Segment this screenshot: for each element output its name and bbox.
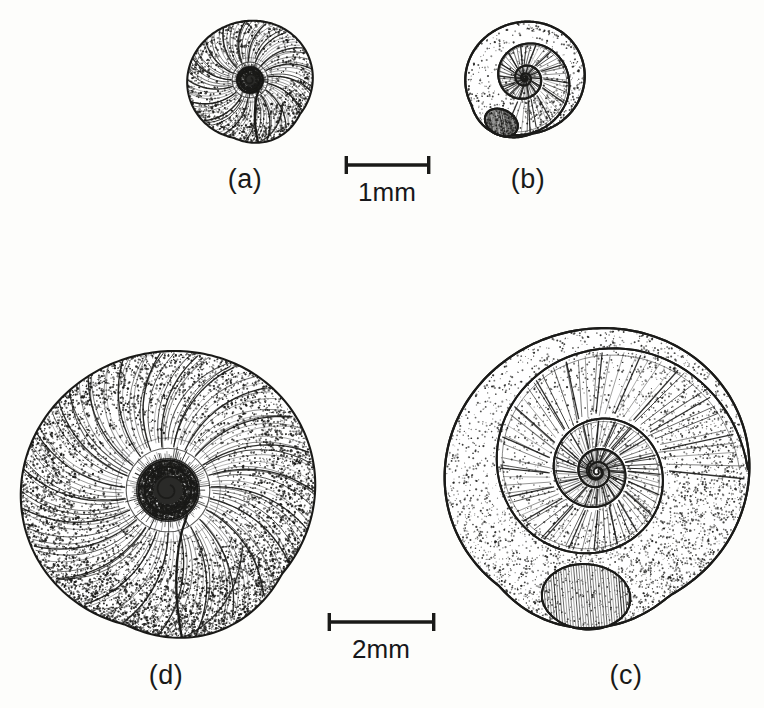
figure-label-b: (a) (185, 164, 305, 195)
scale-bar-2mm-rule (0, 0, 764, 708)
illustration-plate: (a) (b) (c) (d) 1mm 2mm (0, 0, 764, 708)
figure-label-a: (b) (468, 164, 588, 195)
scale-label-1mm: 1mm (327, 177, 447, 208)
scale-bar-2mm (0, 0, 764, 708)
figure-label-c: (c) (566, 660, 686, 691)
scale-label-2mm: 2mm (321, 634, 441, 665)
figure-label-d: (d) (106, 660, 226, 691)
